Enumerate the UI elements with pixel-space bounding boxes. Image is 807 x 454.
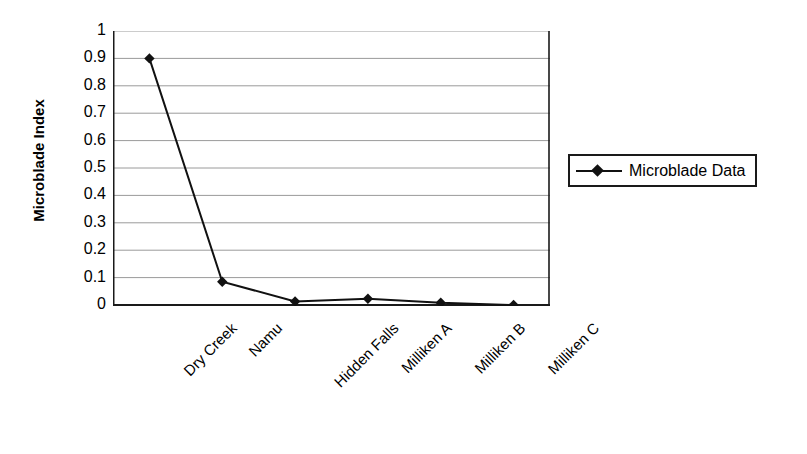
- x-axis-tick-label: Namu: [246, 320, 285, 359]
- data-point-marker: [363, 293, 373, 303]
- y-axis-tick-label: 0.8: [52, 77, 106, 93]
- plot-area: [113, 31, 550, 306]
- y-axis-tick-labels: 10.90.80.70.60.50.40.30.20.10: [52, 31, 106, 306]
- legend-line-diamond-icon: [576, 164, 622, 178]
- line-chart: Microblade Index 10.90.80.70.60.50.40.30…: [0, 0, 807, 454]
- y-axis-title: Microblade Index: [30, 51, 47, 271]
- x-axis-tick-label: Milliken A: [398, 320, 453, 375]
- plot-canvas: [113, 31, 550, 306]
- y-axis-tick-label: 0.1: [52, 269, 106, 285]
- x-axis-tick-label: Milliken C: [545, 320, 602, 377]
- x-axis-tick-label: Milliken B: [472, 320, 528, 376]
- legend-entry-microblade-data: Microblade Data: [576, 163, 746, 179]
- data-point-marker: [144, 53, 154, 63]
- gridlines: [113, 31, 550, 305]
- series-markers-microblade-data: [144, 53, 519, 306]
- series-line-microblade-data: [149, 58, 513, 305]
- y-axis-tick-label: 0.7: [52, 104, 106, 120]
- x-axis-tick-label: Dry Creek: [181, 320, 239, 378]
- y-axis-tick-label: 0.6: [52, 132, 106, 148]
- legend-label: Microblade Data: [629, 163, 746, 179]
- y-axis-tick-label: 0.2: [52, 241, 106, 257]
- y-axis-tick-label: 0.5: [52, 159, 106, 175]
- x-axis-tick-labels: Dry CreekNamuHidden FallsMilliken AMilli…: [113, 306, 550, 446]
- y-axis-tick-label: 0.3: [52, 214, 106, 230]
- y-axis-tick-label: 1: [52, 22, 106, 38]
- y-axis-tick-label: 0: [52, 296, 106, 312]
- y-axis-tick-label: 0.9: [52, 49, 106, 65]
- x-axis-tick-label: Hidden Falls: [331, 320, 401, 390]
- chart-legend: Microblade Data: [568, 154, 757, 187]
- y-axis-tick-label: 0.4: [52, 186, 106, 202]
